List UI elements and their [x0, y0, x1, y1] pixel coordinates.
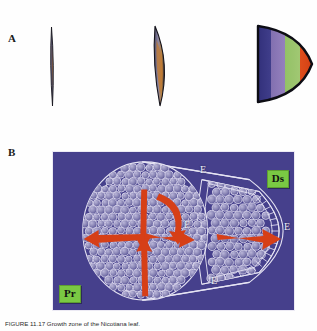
figure-caption: FIGURE 11.17 Growth zone of the Nicotian…: [5, 320, 312, 331]
cell: [194, 206, 202, 214]
cell: [105, 276, 113, 284]
cell: [98, 248, 106, 256]
cell: [113, 192, 121, 200]
cell: [126, 269, 133, 276]
cell: [146, 164, 153, 171]
cell: [90, 248, 98, 256]
cell: [216, 226, 224, 234]
cell: [216, 211, 225, 220]
epidermis-label-bot: E: [211, 276, 217, 286]
cell: [118, 227, 125, 234]
cell: [153, 163, 161, 171]
cell: [230, 204, 238, 212]
cell: [158, 270, 165, 277]
cell: [243, 211, 251, 219]
cell: [93, 214, 100, 221]
cell: [243, 227, 251, 235]
cell: [235, 227, 243, 235]
cell: [125, 256, 132, 263]
cell: [166, 185, 174, 193]
cell: [185, 247, 193, 255]
cell: [133, 171, 141, 179]
stage-3-banded-leaf: [256, 22, 317, 108]
cell: [221, 203, 229, 211]
cell: [240, 219, 247, 226]
cell: [85, 227, 93, 235]
panel-a-stages-svg: [0, 14, 317, 114]
cell: [102, 186, 109, 193]
cell: [230, 219, 239, 228]
cell: [231, 251, 239, 259]
cell: [101, 227, 108, 234]
epidermis-label-mid: E: [184, 220, 190, 230]
cell: [113, 248, 121, 256]
cell: [114, 277, 122, 284]
stage-1-sliver: [51, 27, 54, 106]
cell: [165, 256, 173, 264]
cell: [252, 226, 261, 235]
cell: [129, 290, 136, 297]
cell: [185, 206, 192, 213]
cell: [177, 276, 185, 284]
cell: [226, 242, 234, 250]
cell: [134, 255, 141, 262]
cell: [189, 255, 197, 263]
cell: [234, 195, 242, 203]
tag-distal: Ds: [267, 170, 289, 188]
cell: [121, 248, 129, 256]
cell: [208, 242, 216, 250]
cell: [149, 185, 157, 192]
cell: [170, 262, 177, 269]
cell: [149, 213, 156, 220]
epidermis-label-right: E: [284, 222, 290, 232]
cell: [216, 257, 225, 266]
cell: [174, 184, 182, 192]
cell: [98, 220, 105, 227]
cell: [248, 203, 256, 211]
cell: [118, 185, 125, 192]
cell: [217, 243, 225, 251]
cell: [125, 199, 133, 207]
cell: [208, 227, 215, 234]
cell: [121, 276, 129, 284]
cell: [149, 171, 157, 179]
cell: [129, 220, 136, 227]
cell: [149, 227, 157, 235]
cell: [146, 206, 153, 213]
cell: [198, 213, 205, 220]
cell: [182, 186, 189, 193]
cell: [105, 220, 112, 227]
panel-b: E E E E Ds Pr: [52, 151, 295, 311]
panel-b-letter: B: [8, 147, 15, 158]
cell: [133, 199, 141, 207]
cell: [101, 255, 108, 262]
stage-2-crescent: [154, 26, 164, 106]
cell: [248, 250, 256, 258]
cell: [257, 219, 265, 227]
cell: [98, 192, 105, 199]
tag-proximal: Pr: [59, 285, 81, 303]
cell: [89, 206, 97, 214]
cell: [208, 258, 216, 266]
cell: [165, 171, 173, 179]
cell: [211, 219, 220, 228]
figure-root: A: [0, 0, 317, 331]
cell: [213, 250, 221, 258]
cell: [166, 213, 173, 220]
cell: [207, 210, 216, 219]
cell: [130, 277, 137, 284]
cell: [193, 234, 200, 241]
cell: [170, 178, 177, 185]
cell: [158, 242, 165, 249]
cell: [126, 284, 133, 291]
cell: [113, 205, 121, 213]
cell: [252, 211, 260, 219]
cell: [234, 243, 242, 251]
panel-b-diagram-svg: [53, 152, 294, 310]
cell: [225, 195, 234, 204]
cell: [153, 291, 161, 299]
cell: [85, 242, 92, 249]
cell: [97, 206, 105, 214]
cell: [117, 171, 124, 178]
cell: [137, 178, 145, 186]
